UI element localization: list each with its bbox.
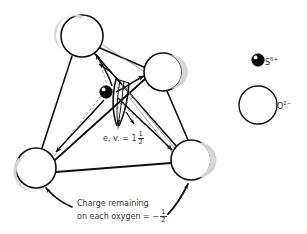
legend-label-oxygen: O2− — [277, 100, 291, 112]
oxygen-upper-right — [144, 53, 188, 91]
legend-label-sulfur: S6+ — [265, 56, 278, 68]
sulfur-center-atom — [100, 86, 112, 98]
ev-arrow-to-lower-left — [56, 100, 104, 152]
bundle-outline-left — [113, 79, 117, 126]
edge-top-to-lower-left — [42, 56, 72, 148]
charge-label-line1: Charge remaining — [77, 199, 149, 208]
ev-label-fraction: 12 — [138, 131, 144, 146]
legend-sulfur-marker — [252, 54, 264, 66]
legend-oxygen-marker — [239, 86, 277, 124]
edge-upper-right-to-lower-right — [167, 91, 188, 140]
legend-sulfur-highlight — [254, 56, 258, 60]
ev-label-whole: 1 — [131, 134, 136, 144]
oxygen-lower-left — [13, 148, 56, 191]
legend-oxygen-charge: 2− — [283, 100, 291, 106]
ev-label-prefix: e. v. = — [103, 134, 131, 143]
leader-arrow-to-lower-left-oxygen — [46, 188, 72, 207]
charge-remaining-label: Charge remainingon each oxygen = −12 — [77, 199, 167, 224]
legend-sulfur-charge: 6+ — [270, 56, 278, 62]
edge-lower-left-to-lower-right — [56, 163, 171, 172]
oxygen-top — [54, 15, 103, 57]
leader-arrow-to-lower-right-oxygen — [168, 184, 188, 214]
ev-fraction-denominator: 2 — [138, 139, 144, 146]
charge-label-fraction: 12 — [160, 209, 166, 224]
charge-label-line2-prefix: on each oxygen = − — [77, 212, 159, 221]
electrostatic-valence-label: e. v. = 112 — [103, 131, 144, 146]
oxygen-atoms — [13, 15, 216, 192]
bundle-side-arrow — [126, 112, 134, 124]
charge-fraction-denominator: 2 — [160, 217, 166, 224]
oxygen-lower-right — [171, 140, 216, 180]
sulfur-highlight — [102, 88, 106, 92]
